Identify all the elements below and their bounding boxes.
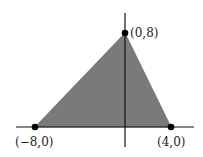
shaded-triangle (35, 33, 171, 127)
vertex-label-right: (4,0) (157, 135, 185, 149)
vertex-point-top (122, 30, 129, 37)
vertex-label-left: (−8,0) (15, 135, 54, 149)
vertex-label-top: (0,8) (130, 26, 158, 40)
vertex-point-left (32, 124, 39, 131)
triangle-diagram: (0,8) (−8,0) (4,0) (0, 0, 203, 157)
vertex-point-right (168, 124, 175, 131)
